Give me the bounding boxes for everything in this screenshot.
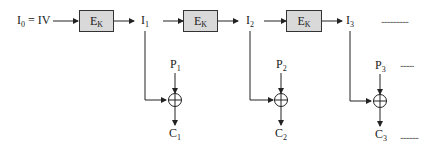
ciphertext-3-label: C3 (375, 128, 387, 145)
encrypt-block-2: EK (183, 10, 218, 32)
plaintext-2-label: P2 (276, 58, 287, 75)
ciphertext-2-label: C2 (275, 127, 287, 144)
intermediate-2-label: I2 (246, 14, 254, 31)
encrypt-block-1: EK (79, 10, 114, 32)
ciphertext-1-label: C1 (169, 127, 181, 144)
continuation-dots-c: ............ (400, 130, 418, 141)
intermediate-1-label: I1 (141, 14, 149, 31)
plaintext-3-label: P3 (375, 59, 386, 76)
continuation-dots-top: .................. (381, 14, 408, 25)
iv-label: I0 = IV (17, 14, 50, 31)
encrypt-block-3: EK (286, 10, 322, 32)
continuation-dots-p: ......... (400, 58, 414, 69)
plaintext-1-label: P1 (170, 58, 181, 75)
intermediate-3-label: I3 (346, 14, 354, 31)
